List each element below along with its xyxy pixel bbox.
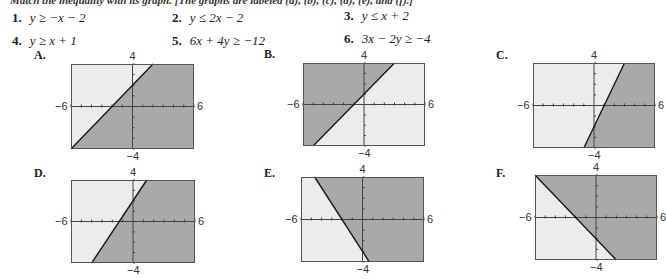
graph-f: 4−4−66 [535, 175, 657, 260]
inequality-6: 6.3x − 2y ≥ −4 [344, 31, 430, 47]
axis-label-ymin: −4 [588, 149, 601, 161]
axis-label-ymin: −4 [127, 264, 140, 276]
graph-label-c: C. [496, 48, 508, 63]
axis-label-xmin: −6 [517, 99, 530, 111]
axis-label-ymin: −4 [590, 261, 603, 273]
axis-label-xmin: −6 [519, 211, 532, 223]
axis-label-xmax: 6 [660, 211, 666, 223]
inequality-expression: 6x + 4y ≥ −12 [190, 33, 265, 48]
axis-label-ymin: −4 [357, 263, 370, 275]
inequality-expression: y ≤ x + 2 [362, 8, 409, 23]
inequality-5: 5.6x + 4y ≥ −12 [172, 33, 265, 49]
axis-label-xmax: 6 [427, 213, 433, 225]
graph-c: 4−4−66 [533, 63, 655, 148]
inequality-number: 3. [344, 8, 354, 23]
inequality-graph-plot [533, 63, 655, 148]
inequality-graph-plot [303, 63, 425, 146]
axis-label-ymin: −4 [358, 147, 371, 159]
axis-label-ymax: 4 [360, 163, 366, 175]
graph-label-b: B. [264, 47, 275, 62]
axis-label-ymax: 4 [591, 49, 597, 61]
instructions: Match the inequality with its graph. [Th… [10, 0, 413, 6]
inequality-graph-plot [71, 64, 194, 149]
graph-label-a: A. [34, 48, 46, 63]
inequality-expression: y ≥ −x − 2 [30, 10, 86, 25]
graph-label-f: F. [496, 166, 505, 181]
graph-d: 4−4−66 [71, 180, 195, 263]
graph-e: 4−4−66 [301, 177, 424, 262]
axis-label-xmax: 6 [658, 99, 664, 111]
inequality-expression: y ≤ 2x − 2 [190, 10, 243, 25]
axis-label-xmax: 6 [197, 100, 203, 112]
graph-a: 4−4−66 [71, 64, 194, 149]
inequality-expression: 3x − 2y ≥ −4 [362, 31, 431, 46]
inequality-number: 1. [12, 10, 22, 25]
inequality-number: 2. [172, 10, 182, 25]
inequality-graph-plot [71, 180, 195, 263]
axis-label-xmin: −6 [287, 98, 300, 110]
inequality-graph-plot [301, 177, 424, 262]
graph-label-e: E. [264, 166, 275, 181]
axis-label-xmax: 6 [198, 215, 204, 227]
inequality-number: 6. [344, 31, 354, 46]
axis-label-ymax: 4 [130, 50, 136, 62]
axis-label-ymax: 4 [361, 49, 367, 61]
axis-label-xmin: −6 [285, 213, 298, 225]
axis-label-xmax: 6 [428, 98, 434, 110]
inequality-number: 5. [172, 33, 182, 48]
axis-label-xmin: −6 [55, 215, 68, 227]
graph-label-d: D. [34, 166, 46, 181]
inequality-number: 4. [12, 33, 22, 48]
inequality-3: 3.y ≤ x + 2 [344, 8, 409, 24]
inequality-4: 4.y ≥ x + 1 [12, 33, 77, 49]
axis-label-xmin: −6 [55, 100, 68, 112]
axis-label-ymax: 4 [130, 166, 136, 178]
inequality-graph-plot [535, 175, 657, 260]
inequality-expression: y ≥ x + 1 [30, 33, 77, 48]
inequality-1: 1.y ≥ −x − 2 [12, 10, 85, 26]
graph-b: 4−4−66 [303, 63, 425, 146]
axis-label-ymax: 4 [593, 161, 599, 173]
inequality-2: 2.y ≤ 2x − 2 [172, 10, 243, 26]
axis-label-ymin: −4 [127, 150, 140, 162]
